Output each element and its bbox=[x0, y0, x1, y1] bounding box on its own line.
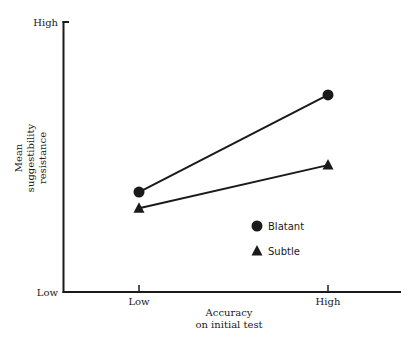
legend-label-blatant: Blatant bbox=[268, 221, 304, 232]
x-tick-label-low: Low bbox=[128, 296, 150, 307]
y-axis-title-line3: resistance bbox=[37, 132, 48, 184]
filled-circle-icon bbox=[252, 221, 263, 232]
y-tick-label-high: High bbox=[33, 17, 58, 28]
legend: Blatant Subtle bbox=[252, 221, 305, 258]
series-line-blatant bbox=[139, 95, 328, 192]
y-axis-title-line2: suggestibility bbox=[25, 124, 36, 193]
y-axis-title: Mean suggestibility resistance bbox=[13, 124, 48, 193]
series-line-subtle bbox=[139, 165, 328, 208]
point-subtle-high bbox=[323, 159, 334, 170]
y-axis-title-line1: Mean bbox=[13, 143, 24, 172]
x-axis-title-line1: Accuracy bbox=[205, 307, 253, 318]
x-axis-title-line2: on initial test bbox=[195, 319, 262, 330]
y-tick-label-low: Low bbox=[37, 287, 59, 298]
point-blatant-high bbox=[323, 89, 334, 100]
filled-triangle-icon bbox=[252, 245, 263, 256]
x-tick-label-high: High bbox=[316, 296, 341, 307]
chart: High Low Low High Accuracy on initial te… bbox=[0, 0, 412, 345]
point-blatant-low bbox=[134, 187, 145, 198]
legend-label-subtle: Subtle bbox=[268, 246, 300, 257]
